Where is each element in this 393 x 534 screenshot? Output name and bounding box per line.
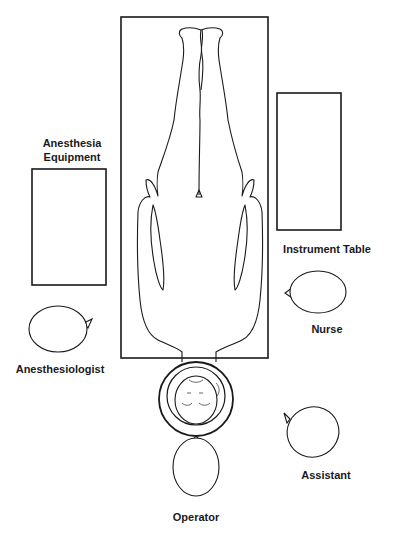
operator-label: Operator bbox=[166, 510, 226, 524]
anesthesia-equipment bbox=[32, 169, 106, 285]
operator-head-icon bbox=[173, 436, 219, 496]
instrument-table-label: Instrument Table bbox=[274, 242, 380, 256]
assistant-head-icon bbox=[280, 400, 346, 465]
patient-head bbox=[175, 376, 217, 424]
nurse-label: Nurse bbox=[302, 322, 352, 336]
operating-table bbox=[121, 17, 268, 358]
anesthesia-equipment-label: Anesthesia Equipment bbox=[30, 136, 114, 164]
patient-outline bbox=[137, 28, 262, 362]
assistant-label: Assistant bbox=[296, 468, 356, 482]
anesthesia-equipment-label-line2: Equipment bbox=[30, 150, 114, 164]
anesthesia-equipment-label-line1: Anesthesia bbox=[30, 136, 114, 150]
instrument-table bbox=[277, 93, 341, 230]
operating-room-diagram bbox=[0, 0, 393, 534]
anesthesiologist-label: Anesthesiologist bbox=[10, 362, 110, 376]
nurse-head-icon bbox=[285, 271, 346, 313]
anesthesiologist-head-icon bbox=[29, 306, 92, 352]
